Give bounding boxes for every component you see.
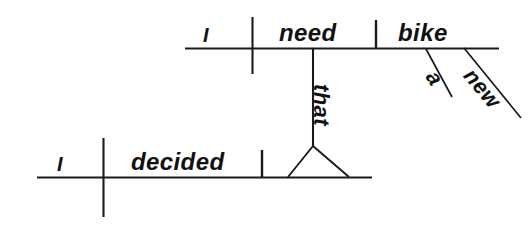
word-subordinate-direct-object: bike: [398, 19, 448, 47]
diagram-lines-svg: [0, 0, 529, 229]
sentence-diagram-canvas: I decided I need bike a new that: [0, 0, 529, 229]
tripod-left-leg: [288, 146, 313, 177]
word-main-subject: I: [57, 153, 64, 176]
word-main-verb: decided: [131, 148, 225, 176]
word-subordinate-subject: I: [203, 24, 210, 47]
word-subordinate-verb: need: [279, 19, 337, 47]
tripod-right-leg: [313, 146, 349, 177]
word-subordinating-conjunction: that: [308, 84, 334, 126]
subordinate-clause-group: [185, 17, 521, 118]
